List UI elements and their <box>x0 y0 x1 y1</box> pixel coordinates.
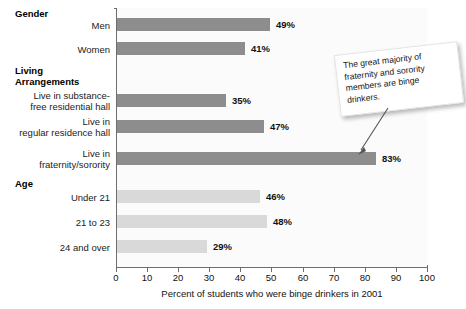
binge-drinking-bar-chart: Gender Living Arrangements Age Men 49% W… <box>0 0 466 309</box>
bar-value-regular-residence-hall: 47% <box>270 120 289 133</box>
bar-row-men: Men 49% <box>0 18 466 35</box>
x-tick-label-70: 70 <box>319 272 349 283</box>
category-label-24-and-over: 24 and over <box>0 242 110 253</box>
bar-fraternity-sorority <box>117 152 376 165</box>
category-label-women: Women <box>0 44 110 55</box>
y-axis-top-cap <box>114 8 117 9</box>
x-axis-title: Percent of students who were binge drink… <box>116 288 428 299</box>
x-tick-label-20: 20 <box>163 272 193 283</box>
bar-row-fraternity-sorority: Live in fraternity/sorority 83% <box>0 152 466 169</box>
x-tick-label-100: 100 <box>412 272 442 283</box>
category-label-regular-residence-hall: Live in regular residence hall <box>0 116 110 138</box>
group-heading-age: Age <box>15 178 33 189</box>
bar-24-and-over <box>117 240 207 253</box>
x-tick-label-90: 90 <box>381 272 411 283</box>
bar-value-fraternity-sorority: 83% <box>382 152 401 165</box>
bar-value-24-and-over: 29% <box>213 240 232 253</box>
x-tick-label-40: 40 <box>225 272 255 283</box>
bar-value-men: 49% <box>276 18 295 31</box>
category-label-21-to-23: 21 to 23 <box>0 217 110 228</box>
bar-value-women: 41% <box>251 42 270 55</box>
category-label-substance-free-hall: Live in substance- free residential hall <box>0 90 110 112</box>
annotation-callout-text: The great majority of fraternity and sor… <box>343 48 456 106</box>
bar-under-21 <box>117 190 260 203</box>
category-label-under-21: Under 21 <box>0 192 110 203</box>
x-axis-line <box>116 267 428 268</box>
category-label-fraternity-sorority: Live in fraternity/sorority <box>0 148 110 170</box>
bar-21-to-23 <box>117 215 267 228</box>
x-tick-label-80: 80 <box>350 272 380 283</box>
x-tick-label-0: 0 <box>101 272 131 283</box>
bar-substance-free-hall <box>117 94 226 107</box>
bar-row-regular-residence-hall: Live in regular residence hall 47% <box>0 120 466 137</box>
bar-row-24-and-over: 24 and over 29% <box>0 240 466 257</box>
x-tick-label-30: 30 <box>194 272 224 283</box>
x-tick-label-50: 50 <box>256 272 286 283</box>
x-tick-label-60: 60 <box>288 272 318 283</box>
bar-value-substance-free-hall: 35% <box>232 94 251 107</box>
category-label-men: Men <box>0 20 110 31</box>
bar-row-21-to-23: 21 to 23 48% <box>0 215 466 232</box>
bar-value-under-21: 46% <box>266 190 285 203</box>
bar-women <box>117 42 245 55</box>
group-heading-living-arrangements: Living Arrangements <box>15 65 79 87</box>
x-tick-label-10: 10 <box>132 272 162 283</box>
bar-row-under-21: Under 21 46% <box>0 190 466 207</box>
bar-value-21-to-23: 48% <box>273 215 292 228</box>
bar-regular-residence-hall <box>117 120 264 133</box>
bar-men <box>117 18 270 31</box>
